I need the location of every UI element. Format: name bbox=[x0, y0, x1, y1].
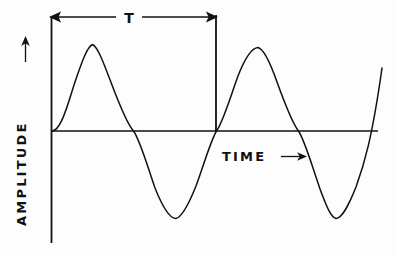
sine-wave-figure: T AMPLITUDE TIME bbox=[0, 0, 396, 257]
y-axis-label-group: AMPLITUDE bbox=[14, 36, 30, 226]
period-dimension-group: T bbox=[49, 10, 218, 26]
x-axis-label-group: TIME bbox=[222, 149, 307, 164]
period-label: T bbox=[124, 10, 134, 26]
waveform-diagram: T AMPLITUDE TIME bbox=[0, 0, 396, 257]
x-axis-label: TIME bbox=[222, 149, 266, 164]
y-axis-label: AMPLITUDE bbox=[14, 121, 29, 226]
